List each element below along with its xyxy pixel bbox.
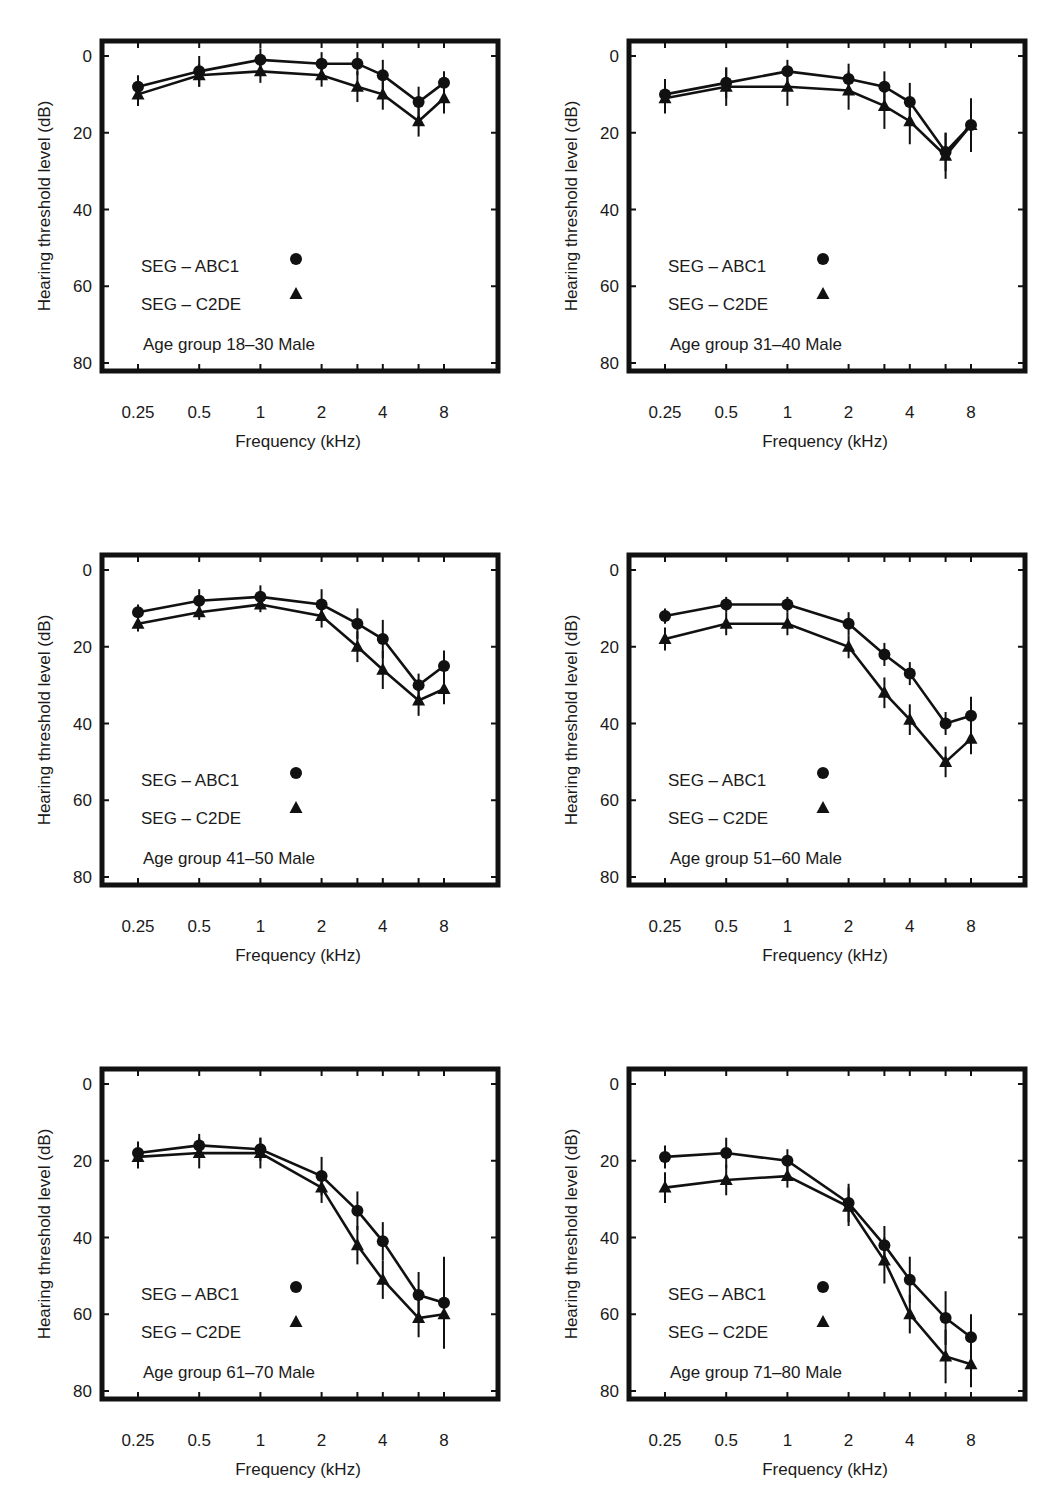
x-axis-title: Frequency (kHz) [235,432,361,451]
y-tick-label: 60 [600,791,619,810]
plot-frame [102,41,498,371]
x-tick-label: 8 [439,1431,448,1450]
y-tick-label: 40 [600,1229,619,1248]
x-tick-label: 1 [256,403,265,422]
y-tick-label: 0 [610,47,619,66]
y-tick-label: 0 [610,1075,619,1094]
series-triangle [132,597,451,716]
x-tick-label: 1 [783,1431,792,1450]
x-tick-label: 0.5 [187,917,211,936]
chart-svg: 0204060800.250.51248Frequency (kHz)Heari… [0,1028,527,1502]
x-axis-title: Frequency (kHz) [762,1460,888,1479]
series-circle [132,1134,450,1349]
triangle-marker-icon [290,287,303,299]
x-tick-label: 1 [783,403,792,422]
y-axis-title: Hearing threshold level (dB) [562,615,581,826]
x-tick-label: 1 [256,1431,265,1450]
y-tick-label: 80 [73,354,92,373]
series-triangle [659,612,978,777]
x-axis-title: Frequency (kHz) [762,946,888,965]
x-tick-label: 0.25 [121,403,154,422]
y-axis-title: Hearing threshold level (dB) [562,101,581,312]
y-tick-label: 0 [83,561,92,580]
circle-marker-icon [290,767,302,779]
y-tick-label: 80 [600,868,619,887]
x-tick-label: 2 [844,917,853,936]
chart-svg: 0204060800.250.51248Frequency (kHz)Heari… [527,514,1054,1014]
y-tick-label: 20 [73,638,92,657]
chart-svg: 0204060800.250.51248Frequency (kHz)Heari… [527,0,1054,500]
series-triangle [132,60,451,137]
x-tick-label: 1 [256,917,265,936]
age-group-caption: Age group 51–60 Male [670,849,842,868]
triangle-marker-icon [290,1315,303,1327]
chart-panel-31-40: 0204060800.250.51248Frequency (kHz)Heari… [527,0,1054,500]
series-circle [132,585,450,696]
chart-panel-51-60: 0204060800.250.51248Frequency (kHz)Heari… [527,514,1054,1014]
age-group-caption: Age group 61–70 Male [143,1363,315,1382]
x-tick-label: 4 [905,917,914,936]
chart-svg: 0204060800.250.51248Frequency (kHz)Heari… [0,514,527,1014]
legend-label-circle: SEG – ABC1 [668,771,766,790]
x-axis-title: Frequency (kHz) [762,432,888,451]
chart-panel-71-80: 0204060800.250.51248Frequency (kHz)Heari… [527,1028,1054,1502]
triangle-marker-icon [817,801,830,813]
legend-label-triangle: SEG – C2DE [668,295,768,314]
x-tick-label: 0.5 [714,917,738,936]
series-circle [132,48,450,117]
x-tick-label: 0.25 [121,917,154,936]
x-tick-label: 4 [905,403,914,422]
chart-panel-41-50: 0204060800.250.51248Frequency (kHz)Heari… [0,514,527,1014]
series-triangle [659,1165,978,1388]
y-axis-title: Hearing threshold level (dB) [35,615,54,826]
x-tick-label: 0.25 [648,1431,681,1450]
y-tick-label: 20 [73,1152,92,1171]
x-tick-label: 2 [844,403,853,422]
chart-svg: 0204060800.250.51248Frequency (kHz)Heari… [527,1028,1054,1502]
y-tick-label: 20 [600,124,619,143]
triangle-marker-icon [817,1315,830,1327]
legend-label-triangle: SEG – C2DE [141,295,241,314]
triangle-marker-icon [290,801,303,813]
age-group-caption: Age group 31–40 Male [670,335,842,354]
y-tick-label: 0 [83,1075,92,1094]
series-triangle [659,68,978,179]
legend-label-circle: SEG – ABC1 [141,257,239,276]
x-tick-label: 0.5 [187,403,211,422]
x-tick-label: 0.5 [187,1431,211,1450]
y-tick-label: 80 [73,1382,92,1401]
x-tick-label: 0.25 [648,917,681,936]
x-tick-label: 4 [378,403,387,422]
triangle-marker-icon [817,287,830,299]
x-tick-label: 0.25 [648,403,681,422]
series-triangle [132,1138,451,1345]
x-tick-label: 4 [378,1431,387,1450]
y-tick-label: 40 [73,1229,92,1248]
chart-svg: 0204060800.250.51248Frequency (kHz)Heari… [0,0,527,500]
plot-frame [629,555,1025,885]
y-tick-label: 60 [73,791,92,810]
y-axis-title: Hearing threshold level (dB) [35,101,54,312]
legend-label-circle: SEG – ABC1 [668,257,766,276]
chart-panel-61-70: 0204060800.250.51248Frequency (kHz)Heari… [0,1028,527,1502]
y-axis-title: Hearing threshold level (dB) [562,1129,581,1340]
y-tick-label: 40 [600,715,619,734]
plot-frame [629,1069,1025,1399]
x-tick-label: 4 [378,917,387,936]
y-tick-label: 60 [600,277,619,296]
legend-label-triangle: SEG – C2DE [141,809,241,828]
y-tick-label: 20 [600,638,619,657]
x-tick-label: 0.5 [714,403,738,422]
x-axis-title: Frequency (kHz) [235,1460,361,1479]
legend-label-circle: SEG – ABC1 [668,1285,766,1304]
x-tick-label: 1 [783,917,792,936]
y-tick-label: 40 [73,715,92,734]
legend-label-triangle: SEG – C2DE [141,1323,241,1342]
x-tick-label: 8 [439,917,448,936]
x-axis-title: Frequency (kHz) [235,946,361,965]
y-tick-label: 60 [73,1305,92,1324]
x-tick-label: 8 [966,917,975,936]
plot-frame [102,1069,498,1399]
age-group-caption: Age group 41–50 Male [143,849,315,868]
x-tick-label: 0.25 [121,1431,154,1450]
